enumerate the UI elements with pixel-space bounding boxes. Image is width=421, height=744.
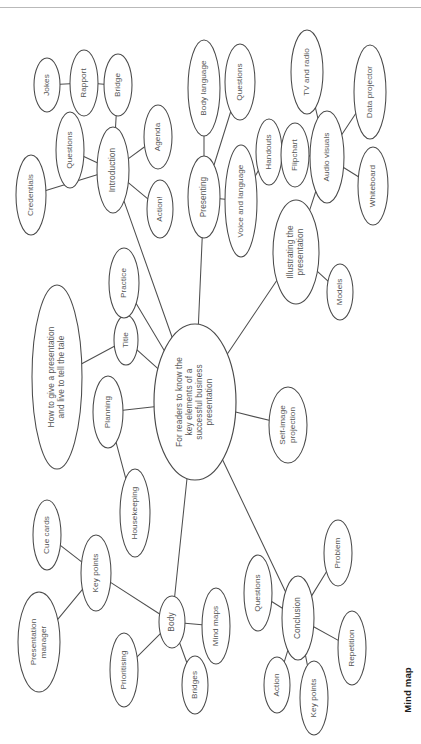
node-label: Body language [199, 60, 208, 116]
node-label: Title [121, 332, 130, 348]
node-label: Planning [103, 396, 112, 428]
node-label: Handouts [264, 134, 273, 169]
node-label: Bridge [113, 73, 122, 97]
mind-map-edge [84, 156, 97, 162]
mind-map-edge [227, 281, 276, 354]
mind-map-edge [128, 147, 144, 159]
node-label: Problem [333, 537, 342, 568]
node-label: Housekeeping [130, 487, 139, 540]
node-label: Introduction [107, 147, 117, 192]
mind-map-node-action-conclusion[interactable]: Action [264, 657, 290, 713]
mind-map-edge [82, 346, 115, 364]
mind-map-node-key-points-conclusion[interactable]: Key points [300, 661, 328, 735]
mind-map-node-body[interactable]: Body [159, 596, 185, 648]
node-label: Body [166, 612, 176, 632]
figure-caption-label: Mind map [402, 667, 413, 713]
node-label: Action! [155, 196, 164, 221]
node-label: Illustrating thepresentation [285, 225, 305, 279]
node-label: Key points [309, 679, 318, 718]
mind-map-node-illustrating[interactable]: Illustrating thepresentation [273, 200, 319, 304]
mind-map-node-questions-intro[interactable]: Questions [56, 112, 84, 188]
mind-map-edge [198, 238, 202, 325]
mind-map-edge [111, 582, 160, 614]
mind-map-edge [284, 650, 288, 661]
mind-map-node-center[interactable]: For readers to know thekey elements of a… [154, 324, 236, 480]
mind-map-edge [60, 545, 81, 562]
node-label: Practice [119, 268, 128, 298]
mind-map-edge [175, 479, 187, 597]
mind-map-edge [310, 191, 316, 210]
mind-map-node-title[interactable]: Title [114, 315, 138, 365]
node-label: Conclusion [292, 597, 302, 639]
mind-map-node-repetition[interactable]: Repetition [338, 611, 366, 685]
mind-map-edge [220, 199, 225, 200]
node-label: Flipchart [290, 138, 299, 171]
mind-map-node-howto[interactable]: How to give a presentationand live to te… [32, 285, 82, 469]
figure-page: For readers to know thekey elements of a… [0, 0, 421, 744]
mind-map-node-key-points-body[interactable]: Key points [81, 535, 111, 611]
mind-map-node-housekeeping[interactable]: Housekeeping [120, 469, 150, 557]
mind-map-edge [116, 442, 126, 478]
node-label: Bridges [190, 671, 199, 699]
mind-map-edge [123, 407, 154, 411]
mind-map-node-planning[interactable]: Planning [93, 376, 123, 448]
mind-map-nodes: For readers to know thekey elements of a… [16, 30, 388, 735]
mind-map-edge [60, 84, 70, 85]
figure-caption: Mind map [395, 642, 419, 738]
node-label: Rapport [79, 68, 88, 98]
mind-map-edge [136, 303, 164, 350]
mind-map-node-prioritising[interactable]: Prioritising [110, 633, 138, 707]
node-label: Prioritising [119, 651, 128, 690]
mind-map-node-rapport[interactable]: Rapport [70, 50, 98, 116]
node-label: Voice and language [236, 164, 245, 237]
mind-map-node-presenting[interactable]: Presenting [188, 156, 220, 238]
mind-map-node-audio-visuals[interactable]: Audio visuals [310, 111, 344, 203]
node-label: Mind maps [211, 606, 220, 646]
mind-map-edge [185, 623, 202, 625]
mind-map-edge [305, 655, 307, 665]
mind-map-edge [180, 643, 187, 663]
node-label: Whiteboard [368, 165, 377, 207]
mind-map-node-body-language[interactable]: Body language [188, 40, 220, 136]
mind-map-edge [344, 167, 359, 176]
node-label: Action [272, 673, 281, 696]
mind-map-node-tv-radio[interactable]: TV and radio [291, 30, 323, 114]
mind-map-node-cue-cards[interactable]: Cue cards [33, 500, 61, 570]
mind-map-edge [342, 114, 356, 135]
node-label: Repetition [347, 629, 356, 666]
node-label: Presenting [198, 176, 208, 217]
node-label: Credentials [26, 174, 35, 216]
node-label: Self-imageprojection [278, 405, 297, 445]
mind-map-node-self-image[interactable]: Self-imageprojection [269, 387, 307, 463]
mind-map-node-voice[interactable]: Voice and language [225, 145, 257, 257]
mind-map-node-conclusion[interactable]: Conclusion [282, 576, 314, 660]
mind-map-node-problem[interactable]: Problem [324, 520, 352, 586]
node-label: How to give a presentationand live to te… [46, 326, 66, 427]
mind-map-node-action-intro[interactable]: Action! [147, 180, 173, 238]
mind-map-edge [272, 602, 283, 609]
mind-map-node-handouts[interactable]: Handouts [256, 119, 282, 185]
mind-map-edge [315, 108, 317, 118]
mind-map-node-presentation-manager[interactable]: Presentationmanager [18, 592, 60, 692]
mind-map-node-models[interactable]: Models [327, 264, 353, 320]
mind-map-node-whiteboard[interactable]: Whiteboard [358, 147, 388, 225]
mind-map-node-credentials[interactable]: Credentials [16, 155, 46, 235]
mind-map-node-questions-conclusion[interactable]: Questions [244, 555, 272, 631]
mind-map-node-mind-maps[interactable]: Mind maps [202, 588, 230, 664]
mind-map-node-bridge[interactable]: Bridge [104, 54, 132, 116]
mind-map-node-questions-present[interactable]: Questions [225, 44, 255, 120]
mind-map-node-jokes[interactable]: Jokes [34, 58, 60, 112]
mind-map-edge [58, 589, 83, 619]
mind-map-node-data-projector[interactable]: Data projector [354, 45, 386, 139]
node-label: Audio visuals [322, 133, 331, 182]
mind-map-node-agenda[interactable]: Agenda [144, 105, 172, 169]
mind-map-node-introduction[interactable]: Introduction [97, 127, 129, 213]
node-label: Key points [91, 554, 100, 593]
mind-map-node-practice[interactable]: Practice [109, 248, 139, 318]
mind-map-node-flipchart[interactable]: Flipchart [281, 123, 309, 187]
mind-map-edge [128, 183, 148, 199]
mind-map-edge [317, 271, 328, 281]
mind-map-edge [314, 627, 339, 641]
node-label: TV and radio [302, 48, 311, 96]
mind-map-node-bridges[interactable]: Bridges [182, 656, 208, 714]
